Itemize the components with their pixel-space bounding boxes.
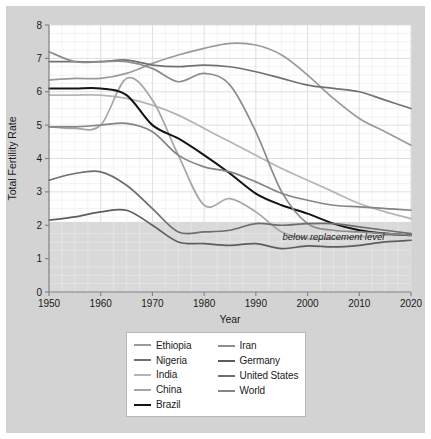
x-tick-label: 2020 xyxy=(400,298,423,309)
y-tick-label: 0 xyxy=(36,287,42,298)
x-tick-label: 1980 xyxy=(193,298,216,309)
legend-swatch-icon xyxy=(218,360,235,362)
y-tick-label: 3 xyxy=(36,186,42,197)
legend-swatch-icon xyxy=(134,359,151,361)
legend-item-united-states[interactable]: United States xyxy=(218,368,299,383)
legend-item-label: Nigeria xyxy=(156,355,187,366)
legend-item-label: Germany xyxy=(240,355,280,366)
legend-item-label: China xyxy=(156,384,182,395)
x-tick-label: 2000 xyxy=(296,298,319,309)
legend-item-label: Brazil xyxy=(156,399,180,410)
y-tick-label: 2 xyxy=(36,220,42,231)
x-tick-label: 2010 xyxy=(348,298,371,309)
legend-item-label: United States xyxy=(240,370,299,381)
fertility-line-chart: 0123456781950196019701980199020002010202… xyxy=(0,0,431,325)
legend-item-label: World xyxy=(240,385,265,396)
legend-swatch-icon xyxy=(218,390,235,392)
y-tick-label: 7 xyxy=(36,53,42,64)
y-tick-label: 4 xyxy=(36,153,42,164)
legend-item-world[interactable]: World xyxy=(218,383,299,398)
legend-swatch-icon xyxy=(134,344,151,346)
legend-swatch-icon xyxy=(218,375,235,377)
y-axis-title: Total Fertility Rate xyxy=(6,116,18,200)
legend-item-label: India xyxy=(156,369,177,380)
x-tick-label: 1950 xyxy=(38,298,61,309)
legend-item-label: Iran xyxy=(240,340,257,351)
y-tick-label: 5 xyxy=(36,120,42,131)
legend-item-germany[interactable]: Germany xyxy=(218,353,299,368)
y-tick-label: 6 xyxy=(36,86,42,97)
y-tick-label: 1 xyxy=(36,253,42,264)
legend-swatch-icon xyxy=(134,374,151,376)
x-tick-label: 1960 xyxy=(90,298,113,309)
legend-swatch-icon xyxy=(218,345,235,347)
x-axis-title: Year xyxy=(219,313,241,325)
legend-swatch-icon xyxy=(134,389,151,391)
legend-column-right: IranGermanyUnited StatesWorld xyxy=(218,338,299,412)
plot-area-container: 0123456781950196019701980199020002010202… xyxy=(0,0,431,325)
legend-item-nigeria[interactable]: Nigeria xyxy=(134,353,214,368)
chart-figure: 0123456781950196019701980199020002010202… xyxy=(0,0,431,439)
below-replacement-annotation: below replacement level xyxy=(282,231,385,242)
y-tick-label: 8 xyxy=(36,20,42,31)
legend-item-brazil[interactable]: Brazil xyxy=(134,397,214,412)
legend-column-left: EthiopiaNigeriaIndiaChinaBrazil xyxy=(134,338,214,412)
legend-container: EthiopiaNigeriaIndiaChinaBrazil IranGerm… xyxy=(0,325,431,439)
x-tick-label: 1970 xyxy=(141,298,164,309)
legend-item-iran[interactable]: Iran xyxy=(218,338,299,353)
chart-legend: EthiopiaNigeriaIndiaChinaBrazil IranGerm… xyxy=(126,332,306,417)
legend-item-ethiopia[interactable]: Ethiopia xyxy=(134,338,214,353)
x-tick-label: 1990 xyxy=(245,298,268,309)
legend-item-china[interactable]: China xyxy=(134,382,214,397)
legend-swatch-icon xyxy=(134,404,151,406)
legend-item-label: Ethiopia xyxy=(156,340,191,351)
legend-item-india[interactable]: India xyxy=(134,368,214,383)
